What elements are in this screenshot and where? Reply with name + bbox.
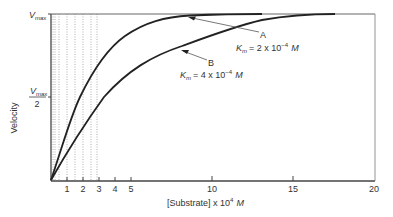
x-axis-ticks — [67, 176, 293, 181]
svg-text:5: 5 — [128, 184, 133, 194]
x-axis-tick-labels: 1 2 3 4 5 10 15 20 — [64, 184, 379, 194]
curve-b — [51, 14, 335, 180]
svg-text:4: 4 — [112, 184, 117, 194]
svg-text:Km= 2 x 10−4M: Km= 2 x 10−4M — [236, 42, 299, 54]
svg-text:B: B — [208, 58, 214, 68]
svg-text:10: 10 — [207, 184, 217, 194]
annotation-b: B Km= 4 x 10−4M — [180, 50, 243, 81]
y-axis-label: Velocity — [9, 102, 19, 134]
annotation-a: A Km= 2 x 10−4M — [188, 17, 299, 55]
x-axis-label: [Substrate] x 104M — [167, 197, 244, 208]
svg-text:20: 20 — [369, 184, 379, 194]
svg-text:Km= 4 x 10−4M: Km= 4 x 10−4M — [180, 69, 243, 81]
michaelis-menten-chart: 1 2 3 4 5 10 15 20 [Substrate] x 104M Ve… — [0, 0, 393, 217]
svg-text:1: 1 — [64, 184, 69, 194]
svg-text:A: A — [260, 30, 266, 40]
y-tick-vmax: Vmax — [29, 10, 46, 21]
svg-text:3: 3 — [96, 184, 101, 194]
svg-text:2: 2 — [80, 184, 85, 194]
svg-text:Vmax: Vmax — [30, 86, 47, 97]
y-tick-vmax-half: Vmax 2 — [29, 86, 47, 109]
plot-frame — [51, 14, 375, 181]
svg-text:15: 15 — [288, 184, 298, 194]
svg-text:2: 2 — [34, 99, 39, 109]
